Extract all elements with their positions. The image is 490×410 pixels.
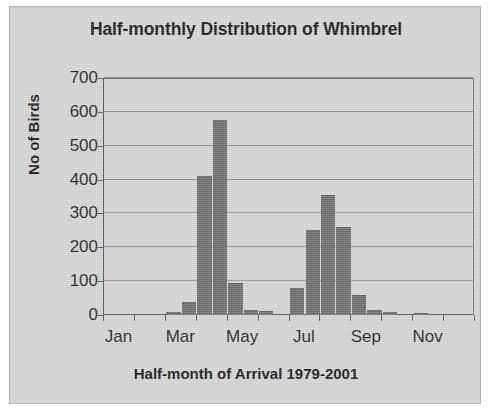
x-tick-mark (227, 315, 228, 321)
y-tick-label: 500 (44, 136, 98, 156)
chart-figure: Half-monthly Distribution of Whimbrel No… (9, 6, 481, 404)
x-tick-label: Jan (83, 327, 153, 347)
x-tick-mark (258, 315, 259, 321)
x-tick-mark (103, 315, 104, 321)
bar (306, 230, 320, 315)
x-tick-label: Nov (393, 327, 463, 347)
bar (228, 283, 242, 315)
x-tick-mark (412, 315, 413, 321)
x-tick-label: Jul (269, 327, 339, 347)
x-tick-label: Mar (145, 327, 215, 347)
x-tick-mark (134, 315, 135, 321)
x-tick-label: Sep (331, 327, 401, 347)
x-tick-mark (350, 315, 351, 321)
x-tick-mark (443, 315, 444, 321)
plot-area (103, 78, 474, 315)
bar (213, 120, 227, 315)
bar (197, 176, 211, 315)
bar (352, 295, 366, 315)
chart-title: Half-monthly Distribution of Whimbrel (10, 19, 482, 40)
y-tick-label: 300 (44, 203, 98, 223)
x-axis-tick-marks (103, 315, 474, 323)
y-tick-label: 100 (44, 271, 98, 291)
bar (336, 227, 350, 315)
y-tick-label: 600 (44, 102, 98, 122)
x-tick-mark (474, 315, 475, 321)
y-tick-label: 200 (44, 237, 98, 257)
x-tick-mark (165, 315, 166, 321)
bar (290, 288, 304, 315)
x-axis-title: Half-month of Arrival 1979-2001 (10, 365, 482, 382)
y-tick-label: 0 (44, 305, 98, 325)
gridline-700 (104, 77, 473, 78)
bar-series (104, 79, 473, 315)
x-tick-mark (196, 315, 197, 321)
x-tick-mark (381, 315, 382, 321)
x-axis-tick-labels: JanMarMayJulSepNov (103, 327, 474, 351)
x-tick-mark (289, 315, 290, 321)
y-axis-tick-labels: 0100200300400500600700 (38, 78, 98, 315)
bar (182, 302, 196, 315)
y-tick-label: 400 (44, 170, 98, 190)
x-tick-mark (319, 315, 320, 321)
x-tick-label: May (207, 327, 277, 347)
y-tick-label: 700 (44, 68, 98, 88)
bar (321, 195, 335, 315)
